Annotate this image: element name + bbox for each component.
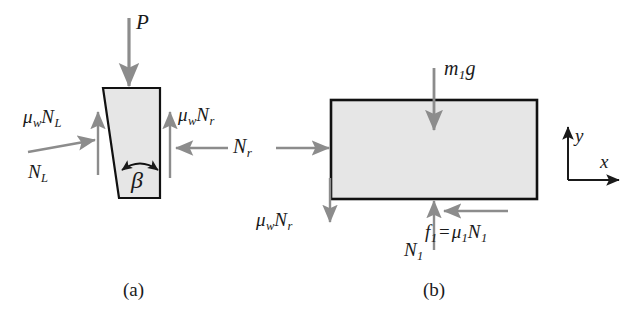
label-left-wall-friction: μwNL	[23, 107, 61, 129]
caption-panel-a: (a)	[123, 280, 144, 299]
diagram-vector-layer	[0, 0, 644, 322]
label-left-normal-NL: NL	[28, 162, 48, 184]
label-ground-friction-equation: f1=μ1N1	[425, 222, 487, 244]
label-axis-x: x	[600, 152, 608, 171]
label-axis-y: y	[575, 126, 583, 145]
label-ground-normal-N1: N1	[404, 240, 423, 262]
label-block-weight: m1g	[444, 58, 475, 81]
label-wall-friction-block: μwNr	[256, 210, 292, 232]
wedge-left-normal-arrow	[28, 140, 95, 152]
caption-panel-b: (b)	[423, 280, 445, 299]
label-interaction-force-Nr: Nr	[233, 136, 252, 159]
label-applied-load-P: P	[136, 12, 149, 33]
label-wedge-angle-beta: β	[131, 168, 143, 192]
figure-container: P μwNL NL μwNr β Nr m1g μwNr N1 f1=μ1N1 …	[0, 0, 644, 322]
label-right-wall-friction-wedge: μwNr	[178, 105, 214, 127]
